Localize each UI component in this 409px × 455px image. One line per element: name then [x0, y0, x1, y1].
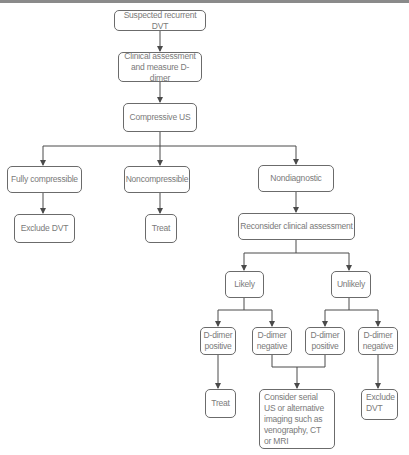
node-label: Unlikely — [337, 279, 365, 290]
node-label: Treat — [211, 398, 230, 409]
node-label: Treat — [152, 223, 171, 234]
node-label: Likely — [234, 279, 255, 290]
node-consider-serial-us: Consider serial US or alternative imagin… — [259, 389, 335, 449]
node-unlikely-d-dimer-positive: D-dimer positive — [305, 327, 345, 355]
node-label: Noncompressible — [126, 174, 189, 185]
node-exclude-dvt: Exclude DVT — [14, 214, 75, 243]
node-compressive-us: Compressive US — [123, 103, 197, 132]
node-nondiagnostic: Nondiagnostic — [258, 165, 334, 192]
node-unlikely: Unlikely — [331, 271, 371, 298]
node-label: Exclude DVT — [21, 223, 68, 234]
node-likely-d-dimer-positive: D-dimer positive — [200, 327, 236, 355]
node-label: Exclude DVT — [366, 392, 395, 414]
node-clinical-assessment: Clinical assessment and measure D-dimer — [118, 52, 202, 82]
node-label: D-dimer negative — [253, 330, 291, 352]
node-label: D-dimer negative — [359, 330, 397, 352]
node-likely: Likely — [225, 271, 264, 298]
node-label: Compressive US — [130, 112, 191, 123]
node-reconsider-clinical-assessment: Reconsider clinical assessment — [238, 213, 355, 240]
node-label: Consider serial US or alternative imagin… — [264, 392, 330, 447]
node-likely-d-dimer-negative: D-dimer negative — [252, 327, 292, 355]
node-unlikely-d-dimer-negative: D-dimer negative — [358, 327, 398, 355]
node-label: D-dimer positive — [201, 330, 235, 352]
node-label: D-dimer positive — [306, 330, 344, 352]
node-label: Suspected recurrent DVT — [115, 10, 205, 32]
node-noncompressible: Noncompressible — [124, 166, 190, 193]
node-exclude-dvt-unlikely-negative: Exclude DVT — [361, 389, 398, 420]
node-label: Fully compressible — [11, 174, 78, 185]
node-treat-likely-positive: Treat — [205, 389, 236, 418]
node-label: Nondiagnostic — [270, 173, 321, 184]
node-label: Clinical assessment and measure D-dimer — [123, 51, 197, 84]
node-label: Reconsider clinical assessment — [240, 221, 353, 232]
node-suspected-recurrent-dvt: Suspected recurrent DVT — [114, 10, 206, 31]
node-fully-compressible: Fully compressible — [7, 166, 82, 193]
node-treat: Treat — [145, 214, 177, 243]
